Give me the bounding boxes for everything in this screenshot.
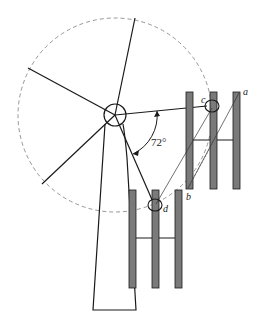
label-d: d xyxy=(163,203,169,214)
label-c: c xyxy=(201,94,206,105)
lower-blade-assembly xyxy=(129,190,182,288)
blade-upper-left xyxy=(28,68,115,115)
angle-label: 72° xyxy=(151,136,166,148)
turbine-diagram: 72° a b c d xyxy=(0,0,257,326)
label-a: a xyxy=(243,86,248,97)
angle-arrow-top xyxy=(154,111,160,117)
blade-lower-right-to-d xyxy=(115,115,153,202)
blade-top xyxy=(115,18,135,115)
vertical-blade-left xyxy=(129,190,136,288)
vertical-blade-right xyxy=(233,92,240,189)
label-b: b xyxy=(186,191,191,202)
vertical-blade-middle xyxy=(152,190,159,288)
line-c-d xyxy=(156,108,212,204)
vertical-blade-right xyxy=(175,190,182,288)
vertical-blade-left xyxy=(186,92,193,189)
blade-lower-left xyxy=(42,115,115,184)
